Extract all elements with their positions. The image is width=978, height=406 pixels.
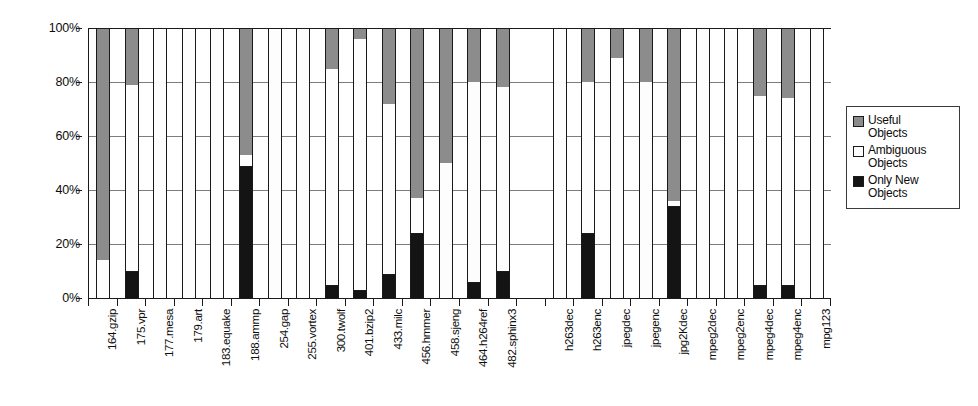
y-tick-mark xyxy=(76,28,82,29)
x-axis-label: 177.mesa xyxy=(164,309,175,357)
bar-jpegdec xyxy=(610,28,624,298)
segment-ambiguous xyxy=(467,82,481,282)
segment-ambiguous xyxy=(781,98,795,284)
segment-only-new xyxy=(496,271,510,298)
x-axis-label: 255.vortex xyxy=(307,309,318,360)
x-axis-label: 183.equake xyxy=(221,309,232,366)
segment-useful xyxy=(667,28,681,201)
segment-ambiguous xyxy=(382,104,396,274)
y-tick-label: 80% xyxy=(18,76,80,88)
bar-h263enc xyxy=(581,28,595,298)
x-axis-label: 464.h264ref xyxy=(478,309,489,367)
x-axis-label: 458.sjeng xyxy=(450,309,461,356)
y-tick-mark xyxy=(76,82,82,83)
segment-ambiguous xyxy=(153,28,167,298)
legend-swatch-icon xyxy=(853,116,864,127)
x-tick-mark xyxy=(801,299,802,306)
x-axis-label: h263dec xyxy=(564,309,575,351)
x-tick-mark xyxy=(88,299,89,306)
bar-179.art xyxy=(182,28,196,298)
segment-only-new xyxy=(667,206,681,298)
stacked-bar-chart: 0%20%40%60%80%100% 164.gzip175.vpr177.me… xyxy=(0,0,978,406)
x-tick-mark xyxy=(145,299,146,306)
bar-mpeg2dec xyxy=(696,28,710,298)
segment-ambiguous xyxy=(296,28,310,298)
legend-item-only-new[interactable]: Only NewObjects xyxy=(853,174,954,200)
segment-only-new xyxy=(581,233,595,298)
segment-ambiguous xyxy=(325,69,339,285)
bar-300.twolf xyxy=(325,28,339,298)
y-tick-label: 40% xyxy=(18,184,80,196)
legend-label: UsefulObjects xyxy=(868,114,907,140)
segment-useful xyxy=(610,28,624,58)
segment-ambiguous xyxy=(696,28,710,298)
bar-458.sjeng xyxy=(439,28,453,298)
x-axis-label: h263enc xyxy=(592,309,603,351)
x-axis-label: 456.hmmer xyxy=(421,309,432,364)
x-axis-label: 164.gzip xyxy=(107,309,118,350)
bar-456.hmmer xyxy=(410,28,424,298)
x-tick-mark xyxy=(402,299,403,306)
segment-ambiguous xyxy=(496,87,510,271)
legend-item-ambiguous[interactable]: AmbiguousObjects xyxy=(853,144,954,170)
bar-482.sphinx3 xyxy=(496,28,510,298)
bar-mpeg4enc xyxy=(781,28,795,298)
segment-ambiguous xyxy=(353,39,367,290)
x-axis-label: mpeg4dec xyxy=(764,309,775,360)
x-tick-mark xyxy=(602,299,603,306)
x-axis-label: mpeg2enc xyxy=(735,309,746,360)
x-axis-label: mpg123 xyxy=(821,309,832,349)
segment-ambiguous xyxy=(239,155,253,166)
legend-swatch-icon xyxy=(853,176,864,187)
segment-only-new xyxy=(382,274,396,298)
segment-only-new xyxy=(753,285,767,299)
bar-188.ammp xyxy=(239,28,253,298)
y-tick-mark xyxy=(76,190,82,191)
x-axis-label: jpegenc xyxy=(650,309,661,347)
bar-mpeg4dec xyxy=(753,28,767,298)
x-tick-mark xyxy=(259,299,260,306)
segment-useful xyxy=(581,28,595,82)
x-axis-label: 401.bzip2 xyxy=(364,309,375,356)
segment-useful xyxy=(96,28,110,260)
segment-ambiguous xyxy=(439,163,453,298)
x-tick-mark xyxy=(545,299,546,306)
y-tick-label: 100% xyxy=(18,22,80,34)
segment-only-new xyxy=(325,285,339,299)
segment-ambiguous xyxy=(125,85,139,271)
x-tick-mark xyxy=(202,299,203,306)
bar-jpg2Kdec xyxy=(667,28,681,298)
x-axis-label: 175.vpr xyxy=(136,309,147,345)
bar-401.bzip2 xyxy=(353,28,367,298)
x-tick-mark xyxy=(716,299,717,306)
segment-useful xyxy=(753,28,767,96)
segment-ambiguous xyxy=(553,28,567,298)
segment-ambiguous xyxy=(410,198,424,233)
plot-area xyxy=(88,28,831,299)
segment-only-new xyxy=(125,271,139,298)
bar-175.vpr xyxy=(125,28,139,298)
x-tick-mark xyxy=(830,299,831,306)
x-axis-label: 188.ammp xyxy=(250,309,261,361)
segment-ambiguous xyxy=(96,260,110,298)
x-axis-label: jpegdec xyxy=(621,309,632,347)
legend-item-useful[interactable]: UsefulObjects xyxy=(853,114,954,140)
x-tick-mark xyxy=(516,299,517,306)
y-axis: 0%20%40%60%80%100% xyxy=(18,0,80,406)
y-tick-mark xyxy=(76,136,82,137)
x-axis-label: 482.sphinx3 xyxy=(507,309,518,368)
y-tick-label: 0% xyxy=(18,292,80,304)
segment-only-new xyxy=(239,166,253,298)
segment-ambiguous xyxy=(610,58,624,298)
x-tick-mark xyxy=(687,299,688,306)
y-tick-mark xyxy=(76,298,82,299)
bar-433.milc xyxy=(382,28,396,298)
y-tick-mark xyxy=(76,244,82,245)
segment-only-new xyxy=(410,233,424,298)
segment-ambiguous xyxy=(753,96,767,285)
segment-useful xyxy=(325,28,339,69)
chart-legend: UsefulObjectsAmbiguousObjectsOnly NewObj… xyxy=(846,106,960,209)
bar-255.vortex xyxy=(296,28,310,298)
segment-only-new xyxy=(781,285,795,299)
bar-177.mesa xyxy=(153,28,167,298)
